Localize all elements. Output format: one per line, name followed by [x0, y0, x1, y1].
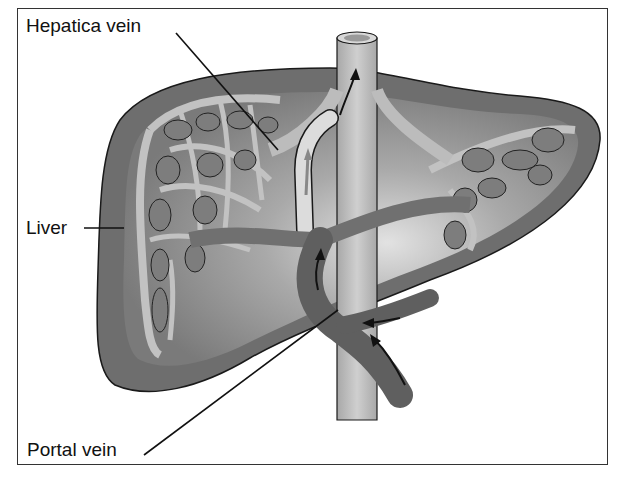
portal-vein-label: Portal vein — [27, 440, 117, 459]
liver-label: Liver — [26, 218, 67, 237]
hepatic-vein-label: Hepatica vein — [26, 16, 141, 35]
liver-illustration — [0, 0, 627, 488]
